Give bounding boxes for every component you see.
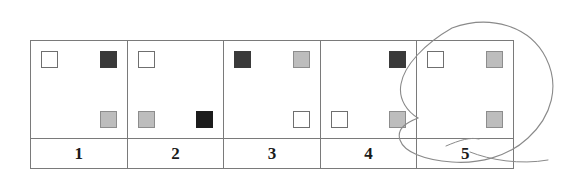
table-row-cells — [31, 41, 514, 139]
grid-cell-2[interactable] — [127, 41, 224, 139]
square-gray — [293, 51, 310, 68]
square-white — [138, 51, 155, 68]
cell-label-2: 2 — [127, 139, 224, 169]
square-gray — [486, 111, 503, 128]
cell-label-4: 4 — [320, 139, 417, 169]
square-black — [196, 111, 213, 128]
cell-label-1: 1 — [31, 139, 128, 169]
grid-cell-1[interactable] — [31, 41, 128, 139]
table-row-labels: 1 2 3 4 5 — [31, 139, 514, 169]
square-gray — [486, 51, 503, 68]
cell-label-3: 3 — [224, 139, 321, 169]
square-white — [427, 51, 444, 68]
square-gray — [389, 111, 406, 128]
square-white — [331, 111, 348, 128]
square-white — [41, 51, 58, 68]
grid-cell-4[interactable] — [320, 41, 417, 139]
figure-canvas: 1 2 3 4 5 — [0, 0, 588, 176]
square-dark — [100, 51, 117, 68]
cell-label-5: 5 — [417, 139, 514, 169]
square-dark — [234, 51, 251, 68]
square-gray — [138, 111, 155, 128]
grid-cell-3[interactable] — [224, 41, 321, 139]
grid-table: 1 2 3 4 5 — [30, 40, 514, 169]
square-gray — [100, 111, 117, 128]
square-white — [293, 111, 310, 128]
square-dark — [389, 51, 406, 68]
grid-cell-5[interactable] — [417, 41, 514, 139]
